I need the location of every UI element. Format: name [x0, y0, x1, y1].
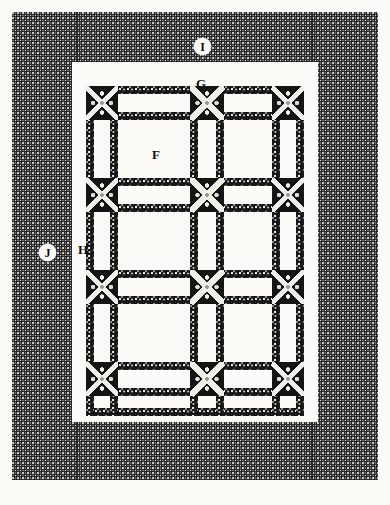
cross-block — [190, 178, 224, 212]
coffer-panel — [226, 188, 270, 202]
cross-block — [272, 86, 304, 120]
cross-block — [272, 362, 304, 396]
coffer-panel-large — [200, 122, 214, 176]
label-G: G — [196, 77, 206, 90]
coffer-panel-large — [282, 306, 294, 360]
coffer-panel — [120, 96, 188, 110]
coffer-panel-large — [282, 398, 294, 408]
cross-block — [272, 270, 304, 304]
coffer-panel-large — [282, 122, 294, 176]
coffer-panel — [226, 280, 270, 294]
cross-block — [190, 362, 224, 396]
label-I: I — [194, 38, 211, 55]
coffer-panel-large — [200, 214, 214, 268]
coffer-panel — [226, 372, 270, 386]
cross-block — [190, 86, 224, 120]
coffer-panel-large — [226, 122, 270, 176]
coffer-panel-large — [120, 214, 188, 268]
cross-block — [86, 86, 118, 120]
label-J: J — [39, 244, 56, 261]
coffer-panel-large — [120, 398, 188, 408]
label-H: H — [78, 243, 88, 256]
cross-block — [86, 270, 118, 304]
coffer-panel-large — [226, 214, 270, 268]
coffer-panel-large — [200, 398, 214, 408]
coffer-panel-large — [226, 398, 270, 408]
cross-block — [86, 178, 118, 212]
label-F: F — [152, 148, 160, 161]
cross-block — [190, 270, 224, 304]
coffer-panel-large — [200, 306, 214, 360]
coffer-panel-large — [96, 122, 108, 176]
coffer-panel-large — [226, 306, 270, 360]
coffer-panel — [120, 280, 188, 294]
coffer-panel-large — [120, 306, 188, 360]
coffer-panel-large — [282, 214, 294, 268]
coffer-panel — [120, 372, 188, 386]
ornament-grid — [86, 86, 304, 416]
coffer-panel-large — [96, 306, 108, 360]
cross-block — [272, 178, 304, 212]
coffer-panel-large — [96, 398, 108, 408]
coffer-panel-large — [96, 214, 108, 268]
ornament-plate: F G H I J — [0, 0, 390, 505]
cross-block — [86, 362, 118, 396]
coffer-panel — [226, 96, 270, 110]
coffer-panel — [120, 188, 188, 202]
